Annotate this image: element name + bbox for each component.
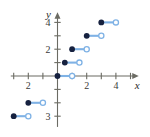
y-tick-label: 3 [46, 111, 51, 122]
open-endpoint-dot [26, 114, 31, 119]
closed-endpoint-dot [62, 60, 68, 66]
step-function-figure: 224423xy [0, 0, 150, 137]
open-endpoint-dot [40, 100, 45, 105]
open-endpoint-dot [99, 33, 104, 38]
open-endpoint-dot [70, 73, 75, 78]
open-endpoint-dot [113, 20, 118, 25]
x-tick-label: 4 [113, 80, 118, 91]
closed-endpoint-dot [84, 33, 90, 39]
x-tick-label: 2 [26, 80, 31, 91]
y-axis-label: y [45, 8, 51, 20]
plot-canvas: 224423xy [0, 0, 150, 137]
y-tick-label: 2 [46, 44, 51, 55]
closed-endpoint-dot [69, 46, 75, 52]
closed-endpoint-dot [98, 20, 104, 26]
closed-endpoint-dot [55, 73, 61, 79]
open-endpoint-dot [77, 60, 82, 65]
x-tick-label: 2 [84, 80, 89, 91]
closed-endpoint-dot [11, 113, 17, 119]
y-axis-arrowhead [55, 12, 61, 19]
x-axis-label: x [134, 79, 140, 91]
open-endpoint-dot [84, 47, 89, 52]
closed-endpoint-dot [25, 100, 31, 106]
